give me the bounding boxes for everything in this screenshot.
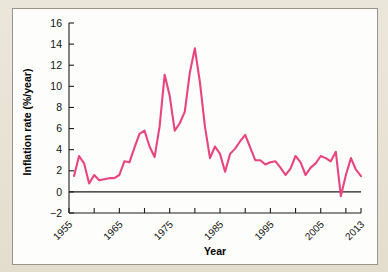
y-axis-tick-label: 4 bbox=[56, 143, 62, 155]
y-axis-tick-labels: −20246810121416 bbox=[50, 17, 62, 219]
y-axis-tick-label: 14 bbox=[50, 38, 62, 50]
x-axis-tick-label: 1955 bbox=[51, 218, 75, 242]
x-axis-tick-label: 1985 bbox=[202, 218, 226, 242]
x-axis-tick-label: 1965 bbox=[101, 218, 125, 242]
x-axis-tick-label: 2013 bbox=[343, 218, 367, 242]
y-axis-tick-label: 12 bbox=[50, 59, 62, 71]
y-axis-ticks bbox=[69, 23, 74, 213]
x-axis-tick-label: 2005 bbox=[303, 218, 327, 242]
y-axis-tick-label: 16 bbox=[50, 17, 62, 29]
y-axis-tick-label: 6 bbox=[56, 122, 62, 134]
inflation-line-chart: −20246810121416 195519651975198519952005… bbox=[13, 9, 377, 264]
x-axis-tick-label: 1975 bbox=[152, 218, 176, 242]
y-axis-tick-label: 0 bbox=[56, 186, 62, 198]
chart-svg: −20246810121416 195519651975198519952005… bbox=[13, 9, 377, 264]
screenshot-root: −20246810121416 195519651975198519952005… bbox=[0, 0, 388, 272]
figure-panel: −20246810121416 195519651975198519952005… bbox=[12, 8, 378, 265]
x-axis-ticks bbox=[69, 208, 361, 213]
y-axis-tick-label: −2 bbox=[50, 207, 62, 219]
y-axis-tick-label: 2 bbox=[56, 164, 62, 176]
x-axis-title: Year bbox=[204, 245, 226, 257]
y-axis-tick-label: 8 bbox=[56, 101, 62, 113]
inflation-series-line bbox=[74, 48, 361, 196]
x-axis-tick-labels: 1955196519751985199520052013 bbox=[51, 218, 367, 242]
x-axis-tick-label: 1995 bbox=[252, 218, 276, 242]
y-axis-tick-label: 10 bbox=[50, 80, 62, 92]
y-axis-title: Inflation rate (%/year) bbox=[21, 69, 33, 176]
